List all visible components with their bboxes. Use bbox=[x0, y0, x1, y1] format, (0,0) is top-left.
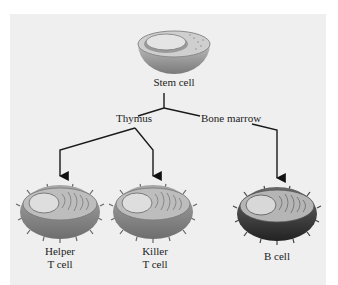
killer-t-cell-icon bbox=[109, 184, 197, 243]
b-cell-icon bbox=[233, 186, 321, 245]
killer-t-cell-label: Killer T cell bbox=[130, 245, 180, 271]
bone-marrow-label: Bone marrow bbox=[198, 112, 264, 125]
thymus-label: Thymus bbox=[112, 112, 156, 125]
stem-cell-icon bbox=[138, 31, 210, 74]
killer-t-cell-label-line2: T cell bbox=[130, 258, 180, 271]
differentiation-diagram bbox=[0, 0, 338, 285]
helper-t-cell-label-line2: T cell bbox=[35, 258, 85, 271]
killer-t-cell-label-line1: Killer bbox=[130, 245, 180, 258]
b-cell-label: B cell bbox=[252, 250, 302, 263]
connector-lines bbox=[60, 93, 277, 178]
helper-t-cell-label-line1: Helper bbox=[35, 245, 85, 258]
helper-t-cell-icon bbox=[16, 184, 104, 243]
stem-cell-label: Stem cell bbox=[144, 76, 204, 89]
helper-t-cell-label: Helper T cell bbox=[35, 245, 85, 271]
